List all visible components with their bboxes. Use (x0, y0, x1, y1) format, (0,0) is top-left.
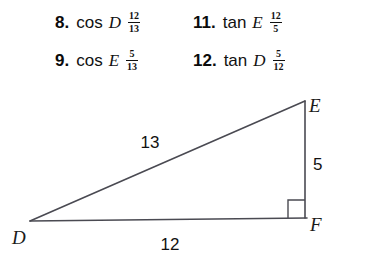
fraction-denominator: 5 (272, 23, 279, 34)
vertex-label-E: E (308, 95, 321, 116)
angle-variable: D (253, 51, 265, 71)
item-number: 12. (193, 51, 217, 71)
triangle-outline (30, 101, 307, 221)
side-label-vertical-leg: 5 (313, 155, 322, 174)
side-label-hypotenuse: 13 (141, 133, 160, 152)
fraction-denominator: 13 (126, 61, 138, 72)
angle-variable: E (252, 13, 262, 33)
answer-item-9: 9. cos E 5 13 (55, 42, 138, 80)
fraction-numerator: 12 (270, 11, 282, 22)
horizontal-leg-line (30, 218, 307, 221)
trig-function: cos (76, 13, 102, 33)
hypotenuse-line (30, 101, 305, 221)
answer-row: 8. cos D 12 13 11. tan E 12 5 (0, 4, 365, 42)
answer-row: 9. cos E 5 13 12. tan D 5 12 (0, 42, 365, 80)
item-number: 8. (55, 13, 69, 33)
side-label-horizontal-leg: 12 (161, 235, 180, 254)
fraction-answer: 12 13 (128, 11, 140, 34)
angle-variable: D (109, 13, 121, 33)
right-angle-icon (288, 200, 305, 218)
fraction-numerator: 12 (128, 11, 140, 22)
item-number: 11. (193, 13, 216, 33)
fraction-numerator: 5 (129, 49, 136, 60)
trig-function: tan (223, 13, 247, 33)
trig-function: cos (76, 51, 102, 71)
vertex-label-F: F (309, 214, 322, 235)
item-number: 9. (55, 51, 69, 71)
answers-block: 8. cos D 12 13 11. tan E 12 5 9. cos E (0, 0, 365, 86)
fraction-answer: 12 5 (270, 11, 282, 34)
vertex-label-D: D (11, 227, 26, 248)
fraction-denominator: 12 (273, 61, 285, 72)
triangle-diagram: D E F 13 5 12 (0, 86, 365, 261)
answer-item-12: 12. tan D 5 12 (193, 42, 285, 80)
answer-item-8: 8. cos D 12 13 (55, 4, 140, 42)
answer-item-11: 11. tan E 12 5 (193, 4, 282, 42)
fraction-answer: 5 12 (273, 49, 285, 72)
fraction-numerator: 5 (275, 49, 282, 60)
fraction-answer: 5 13 (126, 49, 138, 72)
angle-variable: E (109, 51, 119, 71)
fraction-denominator: 13 (128, 23, 140, 34)
trig-function: tan (224, 51, 248, 71)
